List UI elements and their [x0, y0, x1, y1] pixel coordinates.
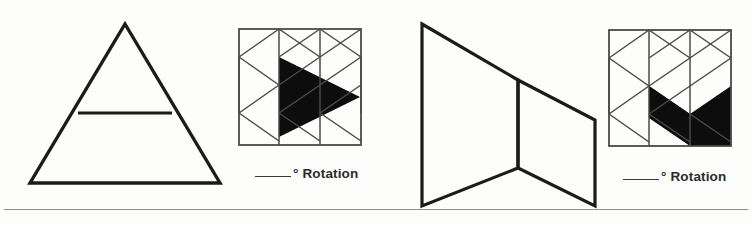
answer-grid-1 — [238, 27, 362, 147]
triangle-figure-svg — [22, 16, 237, 196]
left-parallelogram-outline — [422, 24, 518, 206]
right-parallelogram-outline — [518, 80, 595, 206]
prompt-figure-triangle — [22, 16, 237, 196]
answer-grid-2 — [608, 28, 736, 150]
answer-write-in-line-2[interactable] — [623, 179, 659, 180]
answer-blank-1[interactable]: ° Rotation — [255, 166, 358, 181]
problem-1: ° Rotation — [0, 0, 375, 200]
double-parallelogram-svg — [410, 10, 610, 220]
page-divider-rule — [4, 209, 748, 210]
triangular-lattice-svg-2 — [608, 28, 736, 150]
prompt-figure-parallelograms — [410, 10, 610, 220]
rotation-label-1: ° Rotation — [293, 166, 358, 181]
answer-blank-2[interactable]: ° Rotation — [623, 169, 726, 184]
answer-write-in-line-1[interactable] — [255, 176, 291, 177]
lattice-lines-2 — [609, 30, 731, 146]
triangular-lattice-svg-1 — [238, 27, 362, 147]
worksheet-page: ° Rotation — [0, 0, 751, 225]
rotation-label-2: ° Rotation — [661, 169, 726, 184]
problem-2: ° Rotation — [375, 0, 751, 200]
triangle-outline — [30, 24, 220, 183]
